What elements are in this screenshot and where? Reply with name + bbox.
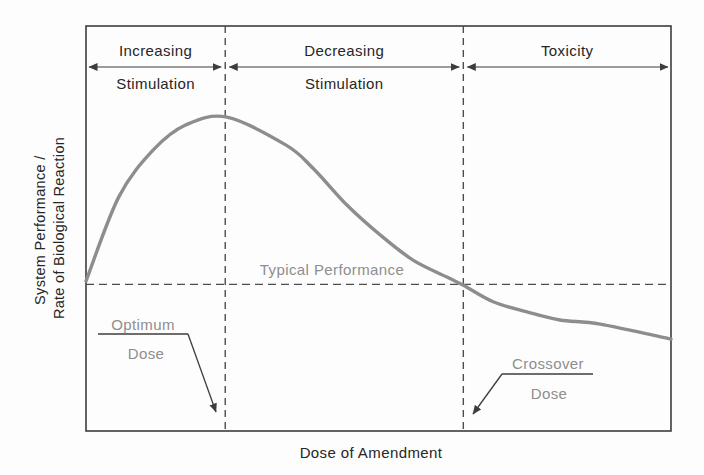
y-axis-label-line2: Rate of Biological Reaction xyxy=(51,137,67,319)
typical-performance-label: Typical Performance xyxy=(260,261,404,278)
y-axis-label-line1: System Performance / xyxy=(32,155,48,305)
optimum-callout-arrow xyxy=(188,334,216,412)
optimum-dose-label: Dose xyxy=(128,345,165,362)
x-axis-label: Dose of Amendment xyxy=(300,444,443,461)
performance-curve xyxy=(86,116,671,339)
region-label-decreasing: Decreasing xyxy=(304,42,384,59)
crossover-dose-label: Dose xyxy=(531,385,568,402)
crossover-label: Crossover xyxy=(512,355,584,372)
optimum-label: Optimum xyxy=(111,316,175,333)
region-label-increasing: Increasing xyxy=(119,42,192,59)
region-label-toxicity: Toxicity xyxy=(541,42,593,59)
region-label-increasing-stimulation: Stimulation xyxy=(116,75,195,92)
dose-response-chart: Increasing Stimulation Decreasing Stimul… xyxy=(0,0,704,475)
y-axis-label: System Performance / Rate of Biological … xyxy=(32,137,67,319)
dose-response-figure: Increasing Stimulation Decreasing Stimul… xyxy=(0,0,704,475)
region-label-decreasing-stimulation: Stimulation xyxy=(305,75,384,92)
crossover-callout-arrow xyxy=(473,374,502,414)
